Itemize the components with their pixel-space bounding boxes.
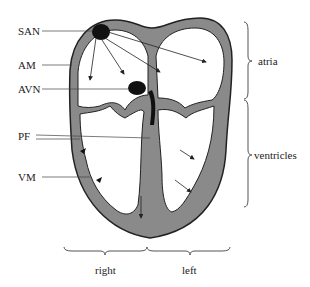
sa-node	[92, 24, 110, 40]
label-atria: atria	[258, 55, 278, 67]
label-avn: AVN	[18, 83, 40, 95]
label-vm: VM	[18, 171, 36, 183]
av-node	[128, 81, 146, 95]
ventricles-brace	[244, 100, 252, 207]
left-atrium-chamber	[156, 28, 224, 108]
label-ventricles: ventricles	[254, 149, 297, 161]
label-am: AM	[18, 59, 36, 71]
label-pf: PF	[18, 130, 30, 142]
label-right: right	[95, 264, 116, 276]
label-san: SAN	[18, 25, 40, 37]
label-left: left	[182, 264, 197, 276]
heart-conduction-diagram: SAN AM AVN PF VM atria ventricles right …	[0, 0, 310, 287]
atria-brace	[244, 22, 252, 99]
left-brace	[147, 247, 230, 255]
right-brace	[64, 247, 147, 255]
